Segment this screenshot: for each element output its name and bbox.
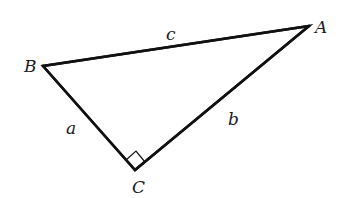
side-label-c: c — [166, 24, 176, 44]
side-a — [43, 66, 135, 170]
vertex-label-c: C — [132, 177, 145, 197]
vertex-label-b: B — [23, 56, 37, 76]
side-label-b: b — [228, 109, 239, 129]
right-angle-marker — [126, 151, 145, 162]
vertex-label-a: A — [313, 17, 327, 37]
side-label-a: a — [66, 118, 76, 138]
triangle-outline — [43, 26, 309, 170]
right-triangle-diagram: A B C c a b — [0, 0, 350, 198]
